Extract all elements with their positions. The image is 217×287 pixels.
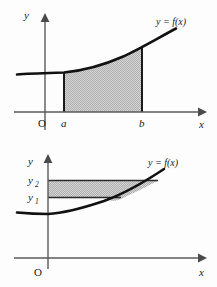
origin-label-bottom: O [34,266,42,278]
level-label-y2: y 2 [27,174,39,189]
curve-label-bottom: y = f(x) [147,157,179,169]
x-axis-arrow-top [198,108,207,117]
figure-definite-integral-vertical: y x O a b y = f(x) [0,0,217,145]
lower-limit-label-a: a [61,117,67,129]
x-axis-label-top: x [198,118,204,130]
x-axis-arrow-bottom [198,254,207,263]
y-axis-label-top: y [23,9,29,21]
y-axis-label-bottom: y [27,155,33,167]
figure-page: y x O a b y = f(x) [0,0,217,287]
level-label-y1-base: y [27,191,33,203]
level-label-y1: y 1 [27,191,39,206]
shaded-region-top [64,47,142,113]
y-axis-arrow-top [41,13,50,22]
x-axis-label-bottom: x [198,266,204,278]
level-label-y2-sub: 2 [35,180,39,189]
figure-definite-integral-horizontal: y x O y 2 y 1 y = f(x) [0,145,217,287]
level-label-y2-base: y [27,174,33,186]
level-label-y1-sub: 1 [35,197,39,206]
y-axis-arrow-bottom [44,154,53,163]
origin-label-top: O [38,117,46,129]
curve-label-top: y = f(x) [155,16,187,28]
upper-limit-label-b: b [139,117,145,129]
